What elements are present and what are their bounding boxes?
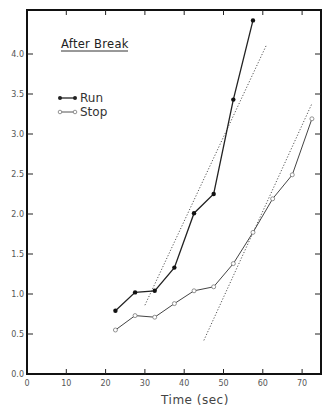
- data-point: [290, 173, 294, 177]
- y-tick-label: 3.0: [11, 130, 24, 139]
- series-stop: [113, 117, 313, 332]
- data-series: [113, 18, 314, 332]
- legend: Run Stop: [58, 91, 107, 119]
- y-tick-label: 0.0: [11, 370, 24, 379]
- data-point: [192, 289, 196, 293]
- x-tick-label: 0: [24, 379, 29, 388]
- fit-line-run: [145, 44, 267, 305]
- y-tick-label: 2.0: [11, 210, 24, 219]
- data-point: [212, 285, 216, 289]
- data-point: [251, 18, 255, 22]
- data-point: [133, 290, 137, 294]
- x-tick-label: 70: [297, 379, 307, 388]
- open-circle-icon: [58, 110, 62, 114]
- series-line: [115, 20, 253, 310]
- data-point: [172, 265, 176, 269]
- x-tick-label: 40: [179, 379, 189, 388]
- fit-lines: [145, 44, 312, 340]
- data-point: [133, 314, 137, 318]
- legend-item-run: Run: [58, 91, 103, 105]
- chart-title-group: After Break: [61, 37, 129, 51]
- y-tick-label: 2.5: [11, 170, 24, 179]
- data-point: [153, 289, 157, 293]
- legend-label-stop: Stop: [80, 105, 107, 119]
- chart-title: After Break: [61, 37, 129, 51]
- series-run: [113, 18, 255, 313]
- open-circle-icon: [73, 110, 77, 114]
- x-tick-label: 60: [258, 379, 268, 388]
- data-point: [231, 262, 235, 266]
- x-tick-label: 30: [140, 379, 150, 388]
- y-tick-label: 4.0: [11, 50, 24, 59]
- chart: 0102030405060700.00.51.01.52.02.53.03.54…: [0, 0, 332, 413]
- data-point: [251, 230, 255, 234]
- data-point: [310, 117, 314, 121]
- legend-item-stop: Stop: [58, 105, 107, 119]
- data-point: [113, 328, 117, 332]
- series-line: [115, 119, 311, 330]
- y-tick-label: 1.0: [11, 290, 24, 299]
- plot-frame: [27, 10, 321, 374]
- x-tick-label: 10: [61, 379, 71, 388]
- filled-circle-icon: [73, 96, 77, 100]
- y-tick-label: 3.5: [11, 90, 24, 99]
- data-point: [211, 192, 215, 196]
- x-axis-title: Time (sec): [160, 393, 229, 407]
- x-tick-label: 50: [218, 379, 228, 388]
- x-tick-label: 20: [101, 379, 111, 388]
- data-point: [231, 97, 235, 101]
- y-tick-label: 0.5: [11, 330, 24, 339]
- data-point: [153, 315, 157, 319]
- filled-circle-icon: [58, 96, 62, 100]
- data-point: [192, 211, 196, 215]
- data-point: [172, 302, 176, 306]
- fit-line-stop: [204, 104, 312, 341]
- legend-label-run: Run: [80, 91, 103, 105]
- y-tick-label: 1.5: [11, 250, 24, 259]
- data-point: [113, 309, 117, 313]
- data-point: [271, 197, 275, 201]
- plot-border: [27, 10, 321, 374]
